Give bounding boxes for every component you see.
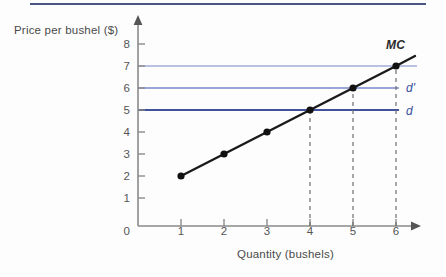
y-tick-label-8: 8: [112, 38, 130, 50]
y-tick-marks: [138, 44, 145, 198]
y-tick-label-1: 1: [112, 192, 130, 204]
y-tick-label-4: 4: [112, 126, 130, 138]
mc-curve: [181, 66, 396, 176]
x-tick-label-4: 4: [301, 225, 319, 237]
demand-label: d: [406, 104, 413, 118]
x-tick-label-2: 2: [215, 225, 233, 237]
data-point: [177, 172, 184, 179]
x-tick-label-6: 6: [387, 225, 405, 237]
data-point: [220, 150, 227, 157]
x-axis-title: Quantity (bushels): [237, 248, 334, 260]
y-tick-label-6: 6: [112, 82, 130, 94]
y-axis-title: Price per bushel ($): [14, 24, 118, 36]
y-axis-arrow-icon: [134, 15, 143, 25]
x-tick-label-5: 5: [344, 225, 362, 237]
data-point: [392, 62, 399, 69]
chart-screenshot: Price per bushel ($) Quantity (bushels) …: [0, 0, 446, 277]
data-point: [349, 84, 356, 91]
y-tick-label-2: 2: [112, 170, 130, 182]
x-tick-label-3: 3: [258, 225, 276, 237]
y-tick-label-7: 7: [112, 60, 130, 72]
y-tick-label-3: 3: [112, 148, 130, 160]
data-point: [306, 106, 313, 113]
demand-prime-label: d': [406, 81, 415, 95]
x-tick-label-1: 1: [172, 225, 190, 237]
mc-curve-label: MC: [386, 38, 405, 52]
x-tick-marks: [181, 219, 396, 226]
data-point: [263, 128, 270, 135]
y-tick-label-5: 5: [112, 104, 130, 116]
origin-label: 0: [112, 225, 130, 237]
x-axis-arrow-icon: [411, 222, 421, 231]
